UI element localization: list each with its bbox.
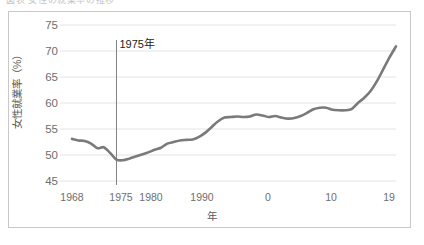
- gridlines: [60, 25, 396, 181]
- plot-area: [0, 0, 424, 245]
